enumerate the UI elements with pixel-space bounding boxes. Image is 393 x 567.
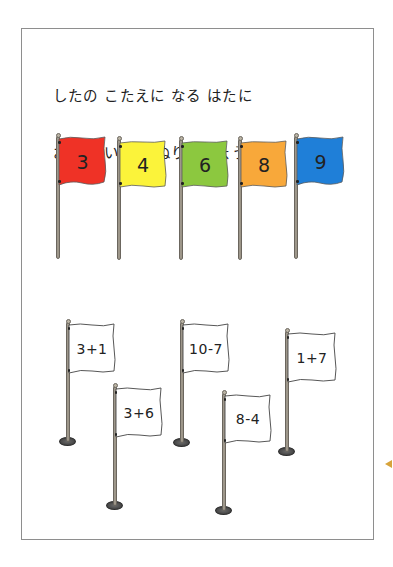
flag-rivet: [181, 182, 184, 185]
instructions-line-1: したの こたえに なる はたに: [53, 87, 261, 106]
flag-rivet: [296, 141, 299, 144]
flag-rivet: [224, 398, 227, 401]
flag-rivet: [115, 433, 118, 436]
flag-expression: 3+1: [76, 341, 107, 357]
flag-cloth: 8-4: [225, 394, 271, 444]
flag-cloth: 10-7: [183, 323, 229, 374]
flag-rivet: [240, 182, 243, 185]
flag-cloth: 3+6: [116, 387, 162, 438]
flag-rivet: [287, 378, 290, 381]
flag-cloth: 3+1: [69, 323, 115, 374]
flag-rivet: [182, 369, 185, 372]
flag-expression: 3+6: [123, 405, 154, 421]
flag-rivet: [296, 180, 299, 183]
flag-cloth: 9: [297, 137, 344, 186]
flag-rivet: [68, 369, 71, 372]
flag-rivet: [224, 439, 227, 442]
flag-rivet: [287, 336, 290, 339]
flag-cloth: 1+7: [288, 332, 336, 383]
flag-rivet: [181, 145, 184, 148]
flag-number: 3: [76, 151, 88, 173]
flag-expression: 8-4: [236, 411, 260, 427]
flag-rivet: [119, 145, 122, 148]
page-turn-arrow-icon[interactable]: [385, 460, 392, 468]
flag-expression: 1+7: [296, 350, 327, 366]
flag-number: 9: [314, 151, 326, 173]
flag-number: 8: [258, 154, 270, 176]
flag-rivet: [58, 141, 61, 144]
flag-rivet: [115, 391, 118, 394]
flag-cloth: 3: [59, 137, 106, 186]
flag-rivet: [119, 182, 122, 185]
flag-number: 4: [137, 154, 149, 176]
flag-cloth: 6: [182, 141, 228, 188]
flag-rivet: [240, 145, 243, 148]
flag-rivet: [68, 327, 71, 330]
flag-expression: 10-7: [189, 341, 223, 357]
flag-rivet: [182, 327, 185, 330]
flag-cloth: 8: [241, 141, 287, 188]
flag-rivet: [58, 180, 61, 183]
flag-cloth: 4: [120, 141, 166, 188]
flag-number: 6: [199, 154, 211, 176]
